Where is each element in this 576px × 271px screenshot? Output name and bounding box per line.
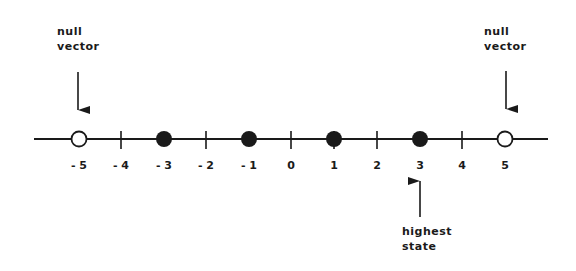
filled-point-1 <box>326 131 342 147</box>
tick-label: - 1 <box>234 159 264 172</box>
tick-label: - 4 <box>106 159 136 172</box>
bottom-annotation-line2: state <box>402 239 452 254</box>
right-annotation-line1: null <box>484 24 526 39</box>
tick-label: 2 <box>362 159 392 172</box>
right-annotation: null vector <box>484 24 526 54</box>
left-annotation-line1: null <box>57 24 99 39</box>
tick-label: 0 <box>276 159 306 172</box>
filled-point-minus-3 <box>156 131 172 147</box>
tick-label: - 5 <box>64 159 94 172</box>
open-point-5 <box>498 132 513 147</box>
tick-label: - 3 <box>149 159 179 172</box>
tick-label: 4 <box>447 159 477 172</box>
filled-point-minus-1 <box>241 131 257 147</box>
left-annotation: null vector <box>57 24 99 54</box>
filled-point-3 <box>412 131 428 147</box>
tick-label: - 2 <box>191 159 221 172</box>
tick-label: 1 <box>319 159 349 172</box>
tick-label: 5 <box>490 159 520 172</box>
left-annotation-line2: vector <box>57 39 99 54</box>
open-point-minus-5 <box>72 132 87 147</box>
right-annotation-line2: vector <box>484 39 526 54</box>
bottom-annotation-line1: highest <box>402 224 452 239</box>
tick-label: 3 <box>405 159 435 172</box>
bottom-annotation: highest state <box>402 224 452 254</box>
